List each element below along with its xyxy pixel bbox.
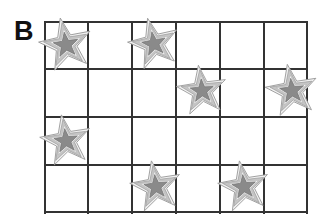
figure-panel: B — [0, 0, 321, 223]
star-grid — [44, 21, 308, 214]
grid-lines — [44, 21, 308, 214]
panel-label: B — [14, 18, 34, 45]
